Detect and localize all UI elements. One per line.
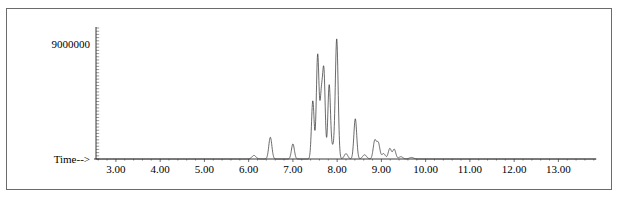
chromatogram-trace xyxy=(96,39,596,159)
y-axis-minor-ticks xyxy=(96,28,99,159)
chromatogram-figure: 3.004.005.006.007.008.009.0010.0011.0012… xyxy=(0,0,619,198)
x-axis-tick-labels: 3.004.005.006.007.008.009.0010.0011.0012… xyxy=(106,163,571,175)
x-tick-label: 10.00 xyxy=(413,163,438,175)
x-tick-label: 11.00 xyxy=(458,163,483,175)
x-tick-label: 8.00 xyxy=(328,163,348,175)
chromatogram-plot: 3.004.005.006.007.008.009.0010.0011.0012… xyxy=(0,0,619,198)
x-tick-label: 13.00 xyxy=(546,163,571,175)
x-tick-label: 6.00 xyxy=(239,163,259,175)
x-tick-label: 5.00 xyxy=(195,163,215,175)
y-axis-intensity-label: 9000000 xyxy=(52,38,91,50)
x-tick-label: 9.00 xyxy=(372,163,392,175)
x-tick-label: 4.00 xyxy=(151,163,171,175)
x-tick-label: 7.00 xyxy=(283,163,303,175)
x-axis-title: Time--> xyxy=(54,153,90,165)
x-tick-label: 12.00 xyxy=(502,163,527,175)
x-tick-label: 3.00 xyxy=(106,163,126,175)
